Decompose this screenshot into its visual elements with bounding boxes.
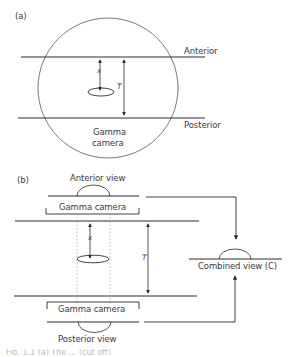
anterior-to-combined-connector: [146, 197, 236, 239]
posterior-label: Posterior: [184, 121, 221, 130]
anterior-view-label: Anterior view: [70, 174, 125, 183]
combined-view-dome: [219, 249, 251, 259]
panel-b: [14, 185, 282, 333]
diagram-canvas: [0, 0, 297, 357]
source-organ-ellipse: [88, 88, 114, 96]
bottom-gamma-camera-label: Gamma camera: [58, 305, 125, 314]
anterior-view-dome: [77, 185, 110, 196]
top-gamma-camera-label: Gamma camera: [59, 203, 126, 212]
gamma-camera-label-line1: Gamma: [93, 128, 126, 137]
posterior-view-dome: [78, 322, 111, 333]
posterior-view-label: Posterior view: [58, 335, 116, 344]
posterior-to-combined-connector: [144, 276, 235, 322]
panel-a-label: (a): [15, 12, 27, 21]
depth-x-symbol: x: [97, 68, 101, 75]
panel-a: [18, 18, 205, 158]
depth-x-symbol-b: x: [88, 235, 92, 242]
panel-b-label: (b): [17, 176, 29, 185]
gamma-camera-circle: [38, 18, 178, 158]
combined-view-label: Combined view (C): [198, 262, 277, 271]
figure-caption-fragment: Fig. 1.1 (a) The ... (cut off): [6, 349, 291, 355]
thickness-t-symbol: T: [117, 83, 121, 91]
gamma-camera-label-line2: camera: [92, 139, 124, 148]
anterior-label: Anterior: [184, 47, 218, 56]
source-organ-ellipse-b: [77, 255, 109, 263]
thickness-t-symbol-b: T: [142, 254, 146, 262]
